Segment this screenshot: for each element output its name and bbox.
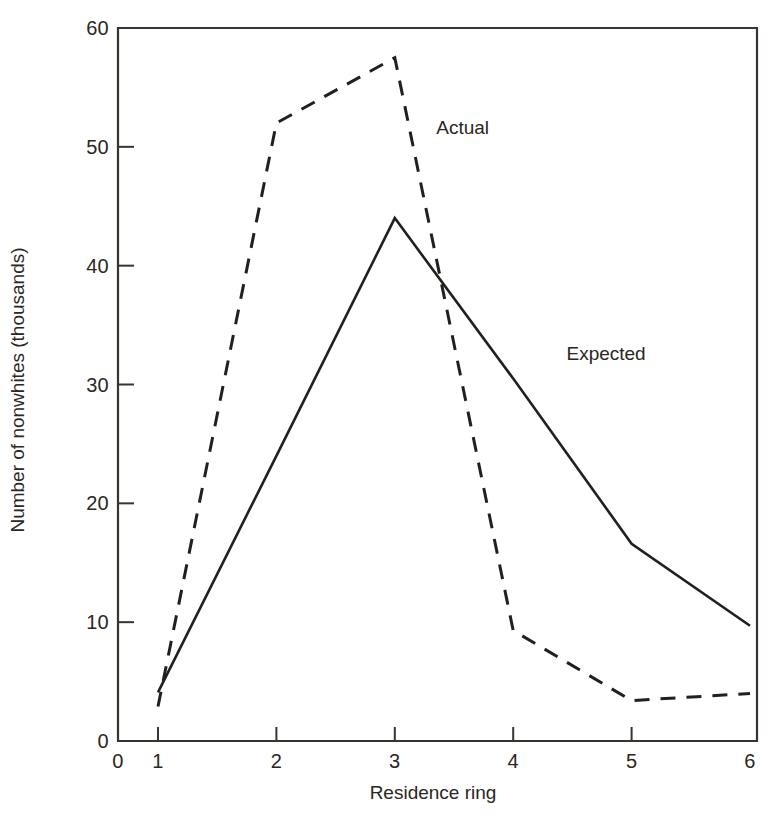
y-axis-title: Number of nonwhites (thousands) xyxy=(7,247,29,532)
y-axis-ticks xyxy=(118,147,134,622)
y-tick-label: 40 xyxy=(86,254,109,277)
series-label-actual: Actual xyxy=(436,117,489,139)
x-tick-label: 3 xyxy=(389,750,400,773)
y-tick-label: 0 xyxy=(98,730,109,753)
series-line-expected xyxy=(158,218,750,692)
plot-area xyxy=(0,0,766,818)
series-label-expected: Expected xyxy=(566,343,645,365)
y-tick-label: 30 xyxy=(86,373,109,396)
x-tick-label: 1 xyxy=(152,750,163,773)
series-line-actual xyxy=(158,58,750,707)
y-tick-label: 10 xyxy=(86,611,109,634)
x-tick-label: 6 xyxy=(744,750,755,773)
series-lines xyxy=(158,58,750,707)
chart-figure: 0102030405060 0123456 ActualExpected Num… xyxy=(0,0,766,818)
y-tick-label: 60 xyxy=(86,17,109,40)
y-tick-label: 50 xyxy=(86,135,109,158)
x-axis-ticks xyxy=(158,727,632,741)
x-tick-label: 2 xyxy=(271,750,282,773)
x-tick-label: 0 xyxy=(112,750,123,773)
x-axis-title: Residence ring xyxy=(370,782,497,804)
x-tick-label: 4 xyxy=(507,750,518,773)
y-tick-label: 20 xyxy=(86,492,109,515)
x-tick-label: 5 xyxy=(626,750,637,773)
